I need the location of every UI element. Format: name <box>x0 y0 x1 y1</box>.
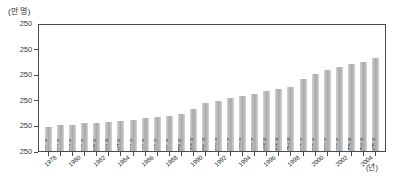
bar-slot: 96,442 명 <box>176 25 188 151</box>
x-axis-label-slot: 1994 <box>236 156 248 186</box>
x-axis-label-slot: 1998 <box>285 156 297 186</box>
bar-slot: 88,738 명 <box>139 25 151 151</box>
x-axis-label-slot <box>54 156 66 186</box>
bar-slot: 201,248 명 <box>370 25 382 151</box>
bar[interactable]: 84,114 명 <box>117 121 124 151</box>
bar-slot: 94,111 명 <box>163 25 175 151</box>
bar-value-label: 86,958 명 <box>130 139 134 151</box>
x-axis-label-slot: 1990 <box>188 156 200 186</box>
bar[interactable]: 185,201 명 <box>324 70 331 151</box>
bar[interactable]: 78,331 명 <box>69 125 76 151</box>
bar-value-label: 88,738 명 <box>142 139 146 151</box>
bar-value-label: 79,386 명 <box>81 139 85 151</box>
bar-value-label: 148,589 명 <box>263 138 267 151</box>
bar[interactable]: 148,589 명 <box>263 91 270 151</box>
bar-value-label: 177,892 명 <box>312 138 316 151</box>
y-axis-tick-label: 250 <box>20 70 32 80</box>
y-axis-tick: 250 <box>0 70 38 80</box>
x-axis-unit-label: (년) <box>366 161 378 172</box>
bar[interactable]: 126,201 명 <box>215 101 222 151</box>
bar-slot: 168,682 명 <box>297 25 309 151</box>
x-axis-label-slot: 1996 <box>261 156 273 186</box>
bar-value-label: 126,201 명 <box>215 138 219 151</box>
bar[interactable]: 70,737 명 <box>45 127 52 151</box>
bar-value-label: 81,751 명 <box>105 139 109 151</box>
bar-slot: 194,440 명 <box>346 25 358 151</box>
bar-value-label: 96,442 명 <box>178 139 182 151</box>
bar-slot: 132,181 명 <box>224 25 236 151</box>
x-axis-label-slot <box>127 156 139 186</box>
y-axis-tick-label: 250 <box>20 45 32 55</box>
bar[interactable]: 77,528 명 <box>57 125 64 151</box>
bar-slot: 185,201 명 <box>321 25 333 151</box>
x-axis-label-slot <box>297 156 309 186</box>
bar[interactable]: 191,489 명 <box>336 67 343 151</box>
bar-slot: 139,591 명 <box>248 25 260 151</box>
bar-value-label: 197,415 명 <box>360 138 364 151</box>
bar-value-label: 121,667 명 <box>202 138 206 151</box>
bar[interactable]: 177,892 명 <box>312 74 319 151</box>
bar[interactable]: 197,415 명 <box>360 62 367 151</box>
bar-series: 70,737 명77,528 명78,331 명79,386 명80,836 명… <box>39 25 385 151</box>
bar[interactable]: 81,751 명 <box>105 122 112 151</box>
bar-value-label: 107,456 명 <box>190 138 194 151</box>
bar-value-label: 90,402 명 <box>154 139 158 151</box>
bar-slot: 81,751 명 <box>103 25 115 151</box>
x-axis-label-slot: 1992 <box>212 156 224 186</box>
bar-value-label: 194,440 명 <box>348 138 352 151</box>
y-axis-tick: 250 <box>0 121 38 131</box>
y-axis-tick: 250 <box>0 147 38 157</box>
bar-value-label: 132,181 명 <box>227 138 231 151</box>
bar[interactable]: 86,958 명 <box>130 120 137 152</box>
x-axis-label-slot <box>200 156 212 186</box>
bar-slot: 107,456 명 <box>188 25 200 151</box>
y-axis-tick-label: 250 <box>20 121 32 131</box>
bar-value-label: 94,111 명 <box>166 139 170 151</box>
y-axis-tick: 250 <box>0 45 38 55</box>
bar-value-label: 80,836 명 <box>93 139 97 151</box>
x-axis-label-slot <box>346 156 358 186</box>
bar[interactable]: 151,212 명 <box>275 89 282 151</box>
x-axis-labels: 1978198019821984198619881990199219941996… <box>39 156 385 186</box>
bar[interactable]: 139,591 명 <box>251 94 258 151</box>
bar[interactable]: 90,402 명 <box>154 117 161 151</box>
bar-slot: 79,386 명 <box>78 25 90 151</box>
bar[interactable]: 201,248 명 <box>372 58 379 151</box>
bar[interactable]: 94,111 명 <box>166 116 173 151</box>
bar-value-label: 139,591 명 <box>251 138 255 151</box>
x-axis-label-slot: 1980 <box>66 156 78 186</box>
bar-value-label: 155,411 명 <box>287 138 291 151</box>
bar[interactable]: 121,667 명 <box>202 103 209 151</box>
bar-value-label: 84,114 명 <box>117 139 121 151</box>
bar-slot: 197,415 명 <box>358 25 370 151</box>
bar[interactable]: 194,440 명 <box>348 64 355 151</box>
x-axis-label-slot <box>103 156 115 186</box>
x-axis-label-slot <box>248 156 260 186</box>
y-axis-tick-label: 250 <box>20 147 32 157</box>
bar[interactable]: 96,442 명 <box>178 114 185 151</box>
bar-value-label: 77,528 명 <box>57 139 61 151</box>
bar-value-label: 70,737 명 <box>45 139 49 151</box>
x-axis-label-slot: 1982 <box>91 156 103 186</box>
x-axis-label-slot <box>321 156 333 186</box>
x-axis-label-slot: 1984 <box>115 156 127 186</box>
bar[interactable]: 79,386 명 <box>81 123 88 151</box>
x-axis-label-slot <box>176 156 188 186</box>
bar-slot: 151,212 명 <box>273 25 285 151</box>
x-axis-label-slot: 1988 <box>163 156 175 186</box>
y-axis-tick: 250 <box>0 19 38 29</box>
bar[interactable]: 80,836 명 <box>93 123 100 151</box>
bar[interactable]: 107,456 명 <box>190 109 197 151</box>
x-axis-label-slot <box>273 156 285 186</box>
bar[interactable]: 136,491 명 <box>239 96 246 151</box>
bar[interactable]: 155,411 명 <box>287 87 294 151</box>
bar-value-label: 168,682 명 <box>300 138 304 151</box>
bar[interactable]: 88,738 명 <box>142 118 149 151</box>
bar-slot: 70,737 명 <box>42 25 54 151</box>
bar-value-label: 201,248 명 <box>372 138 376 151</box>
bar[interactable]: 168,682 명 <box>300 79 307 151</box>
bar[interactable]: 132,181 명 <box>227 98 234 151</box>
bar-slot: 148,589 명 <box>261 25 273 151</box>
bar-value-label: 151,212 명 <box>275 138 279 151</box>
y-axis-tick-label: 250 <box>20 96 32 106</box>
